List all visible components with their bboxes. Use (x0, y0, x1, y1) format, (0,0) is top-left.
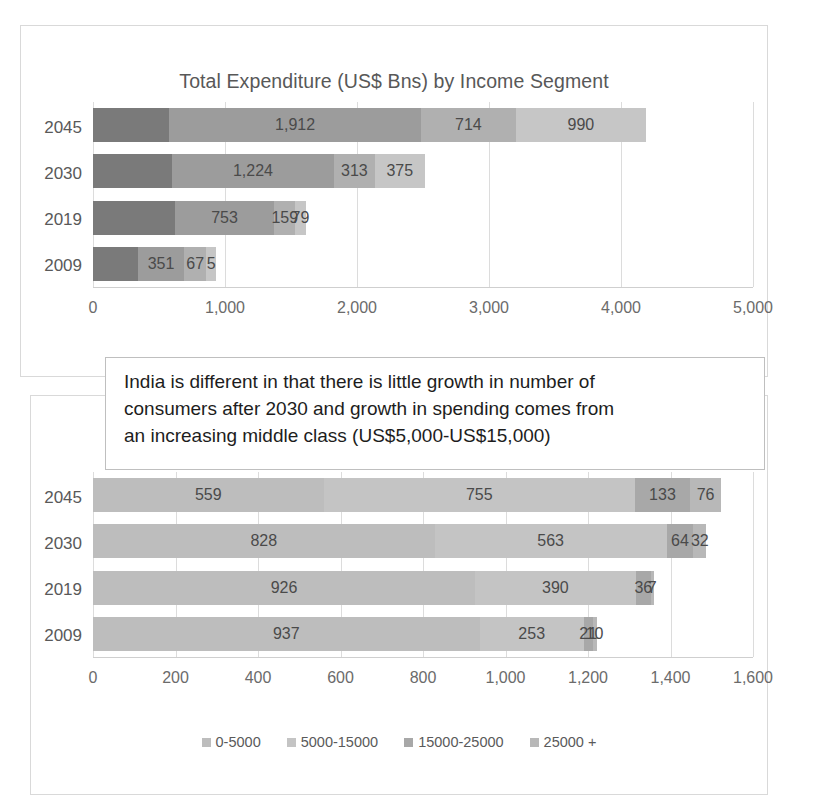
bar-segment (93, 247, 138, 281)
legend-swatch-icon (404, 738, 413, 747)
bar-value-label: 926 (271, 579, 298, 597)
category-label: 2030 (44, 535, 82, 552)
x-axis-tick-label: 200 (162, 669, 189, 687)
bar-segment: 5 (206, 247, 216, 281)
gridline (753, 102, 754, 287)
category-label: 2045 (44, 119, 82, 136)
legend-persons: 0-50005000-1500015000-2500025000 + (31, 734, 767, 750)
bar-value-label: 76 (697, 486, 715, 504)
bar-segment: 253 (480, 617, 584, 651)
x-axis-tick-label: 1,400 (650, 669, 690, 687)
legend-item: 0-5000 (202, 734, 261, 750)
chart-title-expenditure: Total Expenditure (US$ Bns) by Income Se… (21, 70, 767, 93)
bar-value-label: 351 (148, 255, 175, 273)
legend-label: 0-5000 (216, 734, 261, 750)
bar-segment: 67 (184, 247, 206, 281)
legend-label: 5000-15000 (301, 734, 378, 750)
x-axis-tick-label: 1,000 (205, 299, 245, 317)
bar-value-label: 79 (292, 209, 310, 227)
bar-value-label: 64 (671, 532, 689, 550)
bar-segment: 64 (667, 524, 693, 558)
bar-row: 201975315979 (93, 201, 753, 235)
bar-segment: 76 (690, 478, 721, 512)
bar-value-label: 375 (386, 162, 413, 180)
bar-segment: 390 (475, 571, 636, 605)
x-axis-tick-label: 0 (89, 299, 98, 317)
legend-swatch-icon (202, 738, 211, 747)
bar-value-label: 133 (649, 486, 676, 504)
x-axis-tick-label: 1,600 (733, 669, 773, 687)
bar-segment: 1,224 (172, 154, 334, 188)
legend-item: 25000 + (530, 734, 597, 750)
x-axis-tick-label: 1,200 (568, 669, 608, 687)
category-label: 2009 (44, 257, 82, 274)
bar-value-label: 714 (455, 116, 482, 134)
bar-segment: 828 (93, 524, 435, 558)
x-axis-tick-label: 5,000 (733, 299, 773, 317)
x-axis-tick-label: 800 (410, 669, 437, 687)
category-label: 2019 (44, 211, 82, 228)
bar-segment: 351 (138, 247, 184, 281)
bar-segment: 755 (324, 478, 635, 512)
bar-segment: 375 (375, 154, 425, 188)
bar-value-label: 937 (273, 625, 300, 643)
legend-item: 15000-25000 (404, 734, 503, 750)
x-axis-tick-label: 1,000 (485, 669, 525, 687)
legend-item: 5000-15000 (287, 734, 378, 750)
bar-segment: 563 (435, 524, 667, 558)
bar-value-label: 253 (518, 625, 545, 643)
legend-swatch-icon (287, 738, 296, 747)
plot-area-expenditure: 01,0002,0003,0004,0005,00020451,91271499… (93, 102, 753, 287)
x-axis-line (93, 657, 753, 658)
bar-row: 20308285636432 (93, 524, 753, 558)
bar-row: 20099372532110 (93, 617, 753, 651)
bar-row: 204555975513376 (93, 478, 753, 512)
category-label: 2030 (44, 165, 82, 182)
x-axis-line (93, 287, 753, 288)
bar-segment: 313 (334, 154, 375, 188)
bar-row: 20301,224313375 (93, 154, 753, 188)
bar-segment: 133 (635, 478, 690, 512)
bar-value-label: 990 (568, 116, 595, 134)
bar-segment: 79 (295, 201, 305, 235)
category-label: 2045 (44, 489, 82, 506)
callout-line-3: an increasing middle class (US$5,000-US$… (124, 423, 748, 450)
bar-value-label: 5 (207, 255, 216, 273)
legend-label: 25000 + (544, 734, 597, 750)
bar-segment (93, 201, 175, 235)
bar-segment: 559 (93, 478, 324, 512)
bar-segment: 753 (175, 201, 274, 235)
x-axis-tick-label: 0 (89, 669, 98, 687)
bar-segment (93, 108, 169, 142)
bar-value-label: 559 (195, 486, 222, 504)
bar-row: 2019926390367 (93, 571, 753, 605)
plot-area-persons: 02004006008001,0001,2001,4001,6002045559… (93, 472, 753, 657)
legend-swatch-icon (530, 738, 539, 747)
bar-value-label: 390 (542, 579, 569, 597)
bar-row: 20451,912714990 (93, 108, 753, 142)
bar-segment: 32 (693, 524, 706, 558)
bar-segment (93, 154, 172, 188)
category-label: 2009 (44, 627, 82, 644)
bar-value-label: 1,912 (275, 116, 315, 134)
bar-value-label: 1,224 (233, 162, 273, 180)
x-axis-tick-label: 600 (327, 669, 354, 687)
bar-segment: 1,912 (169, 108, 421, 142)
gridline (753, 472, 754, 657)
bar-value-label: 755 (466, 486, 493, 504)
bar-value-label: 32 (691, 532, 709, 550)
x-axis-tick-label: 3,000 (469, 299, 509, 317)
bar-value-label: 563 (537, 532, 564, 550)
bar-segment: 990 (516, 108, 647, 142)
callout-textbox: India is different in that there is litt… (105, 357, 765, 470)
bar-segment: 10 (593, 617, 597, 651)
bar-segment: 926 (93, 571, 475, 605)
bar-segment: 937 (93, 617, 480, 651)
bar-segment: 714 (421, 108, 515, 142)
bar-value-label: 828 (250, 532, 277, 550)
x-axis-tick-label: 400 (245, 669, 272, 687)
category-label: 2019 (44, 581, 82, 598)
bar-value-label: 10 (586, 625, 604, 643)
bar-value-label: 7 (648, 579, 657, 597)
total-expenditure-chart: Total Expenditure (US$ Bns) by Income Se… (20, 25, 768, 377)
